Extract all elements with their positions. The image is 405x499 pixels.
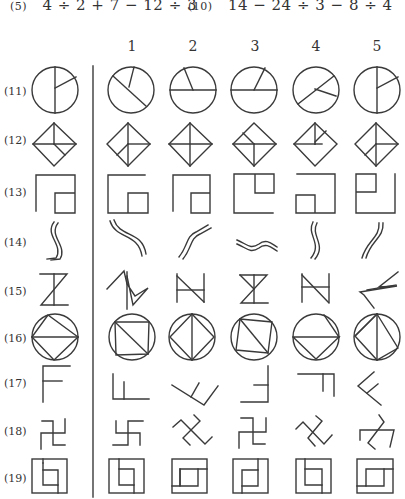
figure-16-option-5	[354, 314, 400, 360]
figure-19-reference	[32, 459, 67, 493]
figure-18-option-1	[113, 421, 143, 445]
figure-19-option-1	[109, 459, 144, 493]
row-13-figures	[36, 174, 395, 213]
figure-19-option-4	[296, 459, 331, 493]
figure-19-option-3	[233, 459, 268, 493]
figure-17-option-1	[113, 374, 149, 399]
figure-15-option-1	[107, 271, 148, 309]
figure-18-reference	[41, 419, 65, 449]
figure-15-option-5	[360, 272, 398, 308]
figure-14-option-1	[110, 220, 146, 256]
figure-14-option-2	[179, 225, 211, 259]
row-16-figures	[32, 314, 400, 360]
figure-13-option-1	[108, 175, 148, 213]
figure-12-option-2	[169, 123, 212, 166]
figure-14-option-5	[362, 223, 383, 258]
figure-11-option-4	[293, 67, 339, 113]
figure-13-option-3	[234, 174, 274, 213]
figure-13-option-5	[356, 174, 395, 213]
figure-13-option-4	[296, 174, 335, 213]
figure-12-reference	[33, 123, 76, 166]
figure-17-option-3	[241, 366, 268, 402]
row-11-figures	[32, 67, 400, 113]
row-19-figures	[32, 459, 393, 493]
figure-18-option-3	[239, 418, 266, 448]
figure-14-option-3	[237, 240, 277, 251]
figure-12-option-1	[107, 123, 150, 166]
figure-15-option-2	[177, 274, 204, 302]
figure-14-option-4	[311, 222, 319, 259]
figure-19-option-5	[357, 459, 393, 493]
row-18-figures	[41, 415, 394, 449]
figure-grid	[0, 0, 405, 499]
figure-16-option-3	[231, 314, 277, 360]
figure-11-option-3	[231, 67, 277, 113]
figure-12-option-4	[294, 123, 337, 166]
figure-17-option-2	[172, 383, 218, 405]
figure-16-option-4	[293, 314, 339, 360]
figure-11-option-2	[170, 67, 216, 113]
figure-16-option-2	[169, 314, 215, 360]
figure-19-option-2	[172, 459, 207, 493]
figure-17-option-4	[298, 374, 334, 396]
figure-14-reference	[47, 222, 62, 260]
figure-13-option-2	[173, 175, 210, 213]
figure-18-option-2	[173, 415, 212, 445]
row-14-figures	[47, 220, 383, 260]
figure-16-reference	[32, 314, 78, 360]
figure-11-option-5	[354, 67, 400, 113]
figure-13-reference	[36, 175, 75, 213]
figure-18-option-5	[360, 415, 394, 449]
figure-12-option-3	[233, 123, 276, 166]
figure-15-option-3	[240, 275, 268, 303]
figure-11-option-1	[108, 67, 154, 113]
figure-15-reference	[40, 274, 68, 305]
figure-15-option-4	[302, 274, 329, 303]
row-12-figures	[33, 123, 398, 166]
figure-12-option-5	[355, 123, 398, 166]
figure-16-option-1	[109, 314, 155, 360]
figure-17-option-5	[358, 372, 381, 405]
figure-18-option-4	[296, 416, 332, 446]
figure-17-reference	[43, 366, 70, 402]
figure-11-reference	[32, 67, 78, 113]
